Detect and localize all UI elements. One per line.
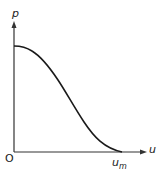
diagram-canvas — [0, 0, 162, 176]
pressure-velocity-diagram: p u O um — [0, 0, 162, 176]
um-label-sub: m — [119, 162, 127, 171]
x-axis-label: u — [149, 144, 156, 155]
x-axis-arrow-icon — [140, 150, 147, 155]
origin-label: O — [5, 153, 14, 164]
y-axis-label: p — [12, 8, 19, 19]
curve-p-of-u — [14, 46, 122, 152]
um-label: um — [112, 157, 127, 168]
um-label-main: u — [112, 156, 119, 169]
y-axis-arrow-icon — [12, 21, 17, 28]
